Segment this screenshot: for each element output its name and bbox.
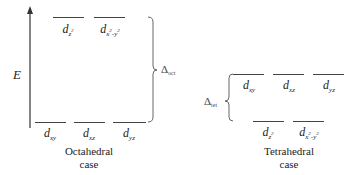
oct-label-dyz: dyz	[123, 126, 135, 142]
oct-level-dz2	[53, 17, 84, 18]
oct-label-dxy: dxy	[44, 126, 56, 142]
oct-level-dxz	[74, 122, 105, 123]
oct-label-dx2y2: dx2-y2	[100, 22, 120, 38]
tet-level-dz2	[253, 121, 284, 122]
tet-level-dxy	[233, 74, 264, 75]
tet-label-dxy: dxy	[243, 78, 255, 94]
oct-level-dyz	[113, 122, 146, 123]
oct-level-dxy	[35, 122, 66, 123]
delta-tet-label: Δtet	[204, 95, 217, 108]
tet-label-dxz: dxz	[283, 78, 295, 94]
energy-axis-arrow	[27, 6, 33, 128]
tet-label-dx2y2: dx2-y2	[299, 125, 319, 141]
tet-label-dz2: dz2	[262, 125, 273, 141]
tetrahedral-brace	[225, 74, 233, 121]
tet-label-dyz: dyz	[323, 78, 335, 94]
energy-axis-label: E	[13, 67, 21, 83]
oct-level-dx2y2	[94, 17, 125, 18]
oct-label-dz2: dz2	[62, 22, 73, 38]
octahedral-brace	[148, 17, 157, 122]
tet-level-dyz	[313, 74, 344, 75]
tet-level-dxz	[273, 74, 304, 75]
delta-oct-label: Δoct	[161, 63, 175, 76]
oct-label-dxz: dxz	[83, 126, 95, 142]
tetrahedral-caption: Tetrahedralcase	[264, 145, 314, 171]
tet-level-dx2y2	[293, 121, 324, 122]
octahedral-caption: Octahedralcase	[65, 145, 113, 171]
